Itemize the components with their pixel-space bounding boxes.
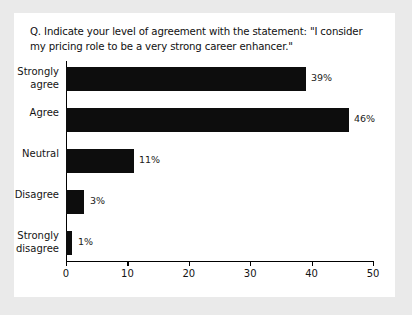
bar[interactable] <box>66 231 72 255</box>
category-label: Agree <box>0 107 59 120</box>
x-axis-tick-label: 0 <box>63 268 69 279</box>
x-axis-tick <box>373 261 374 266</box>
x-axis-tick-label: 30 <box>244 268 257 279</box>
x-axis-tick <box>127 261 128 266</box>
bar[interactable] <box>66 67 306 91</box>
x-axis-tick <box>189 261 190 266</box>
bar[interactable] <box>66 108 349 132</box>
figure-frame: Q. Indicate your level of agreement with… <box>0 0 412 315</box>
bar-value-label: 39% <box>311 72 332 83</box>
x-axis-tick-label: 50 <box>367 268 380 279</box>
x-axis-tick <box>250 261 251 266</box>
bar-value-label: 3% <box>90 195 105 206</box>
x-axis-tick <box>66 261 67 266</box>
chart-panel: Q. Indicate your level of agreement with… <box>14 13 395 297</box>
chart-title: Q. Indicate your level of agreement with… <box>30 25 378 54</box>
bar-value-label: 11% <box>139 154 160 165</box>
bar[interactable] <box>66 149 134 173</box>
bar[interactable] <box>66 190 84 214</box>
category-label: Strongly agree <box>0 66 59 91</box>
bar-value-label: 1% <box>78 236 93 247</box>
category-label: Disagree <box>0 189 59 202</box>
bar-value-label: 46% <box>354 113 375 124</box>
x-axis-tick <box>312 261 313 266</box>
plot-area: Strongly agree 39% Agree 46% Neutral 11%… <box>66 61 373 261</box>
x-axis-line <box>66 261 373 262</box>
x-axis-tick-label: 20 <box>182 268 195 279</box>
x-axis-tick-label: 10 <box>121 268 134 279</box>
category-label: Neutral <box>0 148 59 161</box>
x-axis-tick-label: 40 <box>305 268 318 279</box>
category-label: Strongly disagree <box>0 230 59 255</box>
